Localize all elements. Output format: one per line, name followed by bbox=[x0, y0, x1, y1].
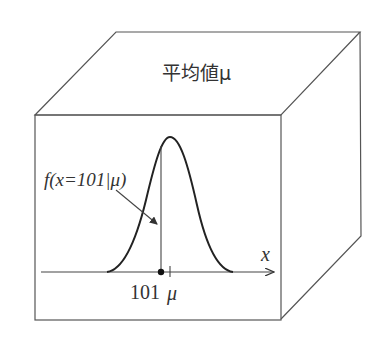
normal-curve bbox=[107, 137, 233, 272]
point-101-dot bbox=[158, 269, 164, 275]
tick-label-101: 101 bbox=[130, 282, 160, 302]
top-face-label: 平均値μ bbox=[162, 64, 231, 83]
annotation-arrow bbox=[116, 190, 157, 224]
x-axis-label: x bbox=[261, 244, 270, 264]
tick-label-mu: μ bbox=[167, 283, 177, 303]
density-annotation: f(x=101|μ) bbox=[44, 170, 126, 189]
